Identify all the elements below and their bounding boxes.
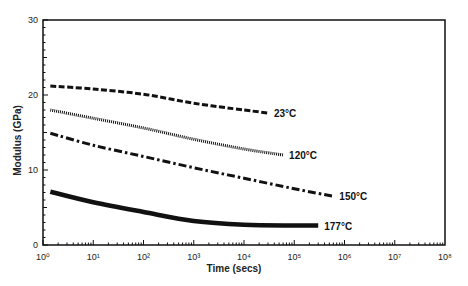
series-label: 120°C [289,150,317,161]
series-line [50,133,333,196]
x-tick-label: 10⁴ [237,252,251,262]
x-tick-label: 10² [137,252,150,262]
x-tick-label: 10⁷ [388,252,401,262]
y-tick-label: 10 [28,165,38,175]
series-label: 150°C [339,191,367,202]
y-tick-label: 30 [28,15,38,25]
x-tick-label: 10³ [187,252,200,262]
x-tick-label: 10⁶ [338,252,352,262]
y-tick-label: 0 [33,240,38,250]
plot-frame [43,20,445,245]
x-tick-label: 10⁸ [438,252,452,262]
x-tick-label: 10⁰ [36,252,50,262]
x-tick-label: 10¹ [87,252,100,262]
y-tick-label: 20 [28,90,38,100]
modulus-time-chart: 010203010⁰10¹10²10³10⁴10⁵10⁶10⁷10⁸Time (… [0,0,468,286]
series-line [50,110,283,155]
y-axis-title: Modulus (GPa) [12,105,23,176]
x-tick-label: 10⁵ [287,252,301,262]
series-line [50,86,268,113]
x-axis-title: Time (secs) [207,263,262,274]
series-line [50,192,318,226]
series-label: 23°C [274,108,296,119]
series-label: 177°C [324,221,352,232]
